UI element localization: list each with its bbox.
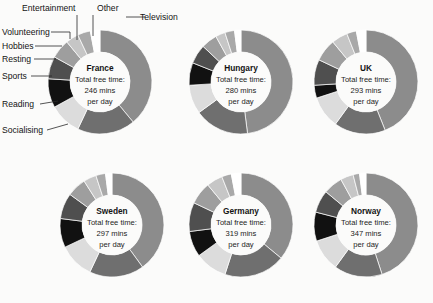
country-name: Sweden: [96, 206, 127, 216]
total-minutes-value: 319 mins: [226, 229, 257, 238]
country-name: UK: [360, 63, 372, 73]
hobbies-label: Hobbies: [2, 41, 34, 51]
donut-chart-sweden: SwedenTotal free time:297 minsper day: [60, 173, 164, 277]
resting-label: Resting: [2, 54, 31, 64]
total-free-time-label: Total free time:: [341, 75, 391, 84]
donut-chart-france: FranceTotal free time:246 minsper day: [48, 30, 152, 134]
per-day-label: per day: [228, 240, 254, 249]
per-day-label: per day: [87, 97, 113, 106]
other-label: Other: [97, 3, 119, 13]
per-day-label: per day: [99, 240, 125, 249]
entertainment-label: Entertainment: [22, 3, 76, 13]
per-day-label: per day: [228, 97, 254, 106]
per-day-label: per day: [353, 240, 379, 249]
total-minutes-value: 347 mins: [351, 229, 382, 238]
donut-charts-canvas: FranceTotal free time:246 minsper dayHun…: [0, 0, 433, 303]
reading-label: Reading: [2, 99, 34, 109]
television-label: Television: [140, 12, 178, 22]
total-free-time-label: Total free time:: [216, 75, 266, 84]
country-name: France: [86, 63, 114, 73]
total-minutes-value: 297 mins: [97, 229, 128, 238]
volunteering-label: Volunteering: [2, 27, 50, 37]
total-minutes-value: 280 mins: [226, 86, 257, 95]
free-time-donut-figure: FranceTotal free time:246 minsper dayHun…: [0, 0, 433, 303]
per-day-label: per day: [353, 97, 379, 106]
donut-chart-uk: UKTotal free time:293 minsper day: [314, 30, 418, 134]
country-name: Norway: [351, 206, 381, 216]
donut-chart-germany: GermanyTotal free time:319 minsper day: [189, 173, 293, 277]
total-minutes-value: 293 mins: [351, 86, 382, 95]
total-free-time-label: Total free time:: [341, 218, 391, 227]
total-free-time-label: Total free time:: [216, 218, 266, 227]
sports-label: Sports: [2, 71, 27, 81]
donut-chart-norway: NorwayTotal free time:347 minsper day: [314, 173, 418, 277]
total-minutes-value: 246 mins: [85, 86, 116, 95]
donut-chart-hungary: HungaryTotal free time:280 minsper day: [189, 30, 293, 134]
total-free-time-label: Total free time:: [75, 75, 125, 84]
country-name: Hungary: [224, 63, 258, 73]
country-name: Germany: [223, 206, 259, 216]
total-free-time-label: Total free time:: [87, 218, 137, 227]
socialising-label: Socialising: [2, 125, 43, 135]
